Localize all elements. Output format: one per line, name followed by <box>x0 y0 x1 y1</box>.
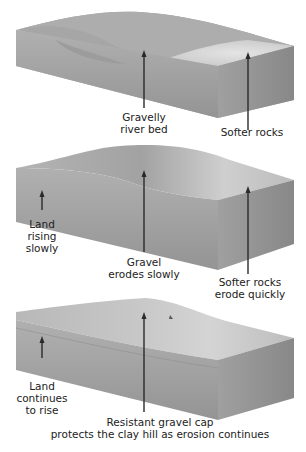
label-gravelly-river-bed: Gravelly river bed <box>114 111 174 135</box>
label-softer-rocks: Softer rocks <box>212 126 292 138</box>
label-land-rising-slowly: Land rising slowly <box>18 218 66 254</box>
block-stage-1 <box>16 12 294 118</box>
label-gravel-erodes-slowly: Gravel erodes slowly <box>108 256 180 280</box>
label-land-continues-to-rise: Land continues to rise <box>12 380 72 416</box>
label-softer-rocks-erode-quickly: Softer rocks erode quickly <box>210 276 290 300</box>
label-resistant-gravel-cap: Resistant gravel cap protects the clay h… <box>40 416 280 440</box>
